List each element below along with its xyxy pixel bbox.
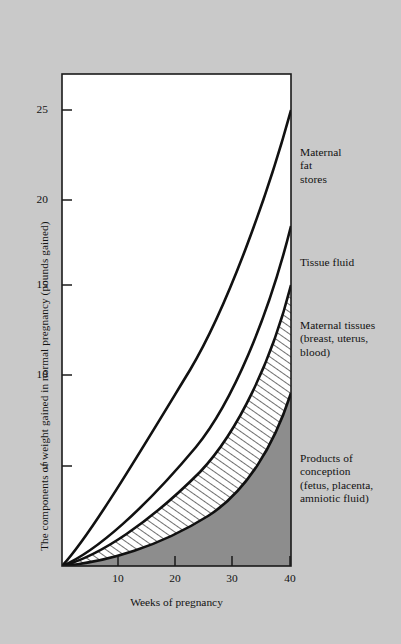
y-tick-label-25: 25 [22,103,48,115]
series-label-maternal-fat-stores: Maternal fat stores [300,146,342,186]
series-label-tissue-fluid: Tissue fluid [300,256,354,269]
series-label-products-of-conception: Products of conception (fetus, placenta,… [300,452,373,506]
x-axis-title: Weeks of pregnancy [62,596,291,608]
x-tick-label-30: 30 [219,572,245,584]
y-tick-label-5: 5 [22,459,48,471]
series-label-maternal-tissues: Maternal tissues (breast, uterus, blood) [300,319,375,359]
y-tick-label-10: 10 [22,368,48,380]
y-axis-title: The components of weight gained in norma… [38,51,58,551]
y-tick-label-15: 15 [22,278,48,290]
x-tick-label-20: 20 [162,572,188,584]
x-tick-label-40: 40 [277,572,303,584]
figure-container: The components of weight gained in norma… [0,0,401,644]
x-tick-label-10: 10 [105,572,131,584]
y-tick-label-20: 20 [22,193,48,205]
